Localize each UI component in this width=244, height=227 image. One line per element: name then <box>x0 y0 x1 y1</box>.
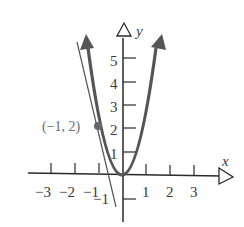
x-tick-label: 2 <box>166 184 174 200</box>
x-tick-label: −3 <box>35 184 51 200</box>
x-axis-arrow-icon <box>219 168 233 184</box>
parabola-right-arrow-icon <box>151 34 166 50</box>
x-tick-label: 3 <box>190 184 198 200</box>
y-ticks <box>123 58 136 199</box>
point-label: (−1, 2) <box>42 119 81 135</box>
y-tick-label: 4 <box>110 76 118 92</box>
y-axis-label: y <box>134 23 143 39</box>
y-tick-label: 2 <box>110 122 118 138</box>
point-marker <box>94 122 102 130</box>
x-tick-label: −1 <box>83 184 99 200</box>
graph-canvas: (−1, 2) y x 5 4 3 2 1 −1 −3 −2 −1 1 2 3 <box>0 0 244 227</box>
x-tick-label: 1 <box>142 184 150 200</box>
x-axis-label: x <box>221 153 229 169</box>
y-tick-label: 5 <box>110 53 118 69</box>
parabola-left-arrow-icon <box>80 34 94 50</box>
y-tick-label: 3 <box>110 99 118 115</box>
parabola-curve <box>88 48 156 175</box>
y-axis-arrow-icon <box>117 23 131 36</box>
y-tick-label: 1 <box>110 146 118 162</box>
x-tick-label: −2 <box>59 184 75 200</box>
